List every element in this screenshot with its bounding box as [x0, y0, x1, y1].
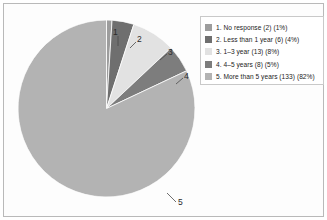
legend-item-label: 1. No response (2) (1%)	[216, 24, 288, 31]
legend-item: 4. 4–5 years (8) (5%)	[205, 58, 320, 70]
legend-item: 5. More than 5 years (133) (82%)	[205, 71, 320, 83]
pie-chart-area: 1 2 3 4 5	[12, 12, 202, 210]
slice-callout-1: 1	[113, 28, 118, 37]
legend-swatch-4	[205, 61, 212, 68]
legend-item-label: 2. Less than 1 year (6) (4%)	[216, 36, 299, 43]
legend-swatch-2	[205, 36, 212, 43]
legend-swatch-1	[205, 24, 212, 31]
chart-legend: 1. No response (2) (1%) 2. Less than 1 y…	[200, 16, 324, 85]
slice-callout-3: 3	[168, 48, 173, 57]
slice-callout-4: 4	[184, 72, 189, 81]
legend-item-label: 4. 4–5 years (8) (5%)	[216, 61, 279, 68]
legend-item-label: 5. More than 5 years (133) (82%)	[216, 73, 315, 80]
slice-callout-5: 5	[178, 198, 183, 207]
slice-callout-2: 2	[137, 35, 142, 44]
legend-item: 2. Less than 1 year (6) (4%)	[205, 33, 320, 45]
legend-item: 3. 1–3 year (13) (8%)	[205, 46, 320, 58]
leader-line-5	[167, 193, 176, 202]
legend-item: 1. No response (2) (1%)	[205, 21, 320, 33]
legend-item-label: 3. 1–3 year (13) (8%)	[216, 48, 279, 55]
legend-swatch-5	[205, 73, 212, 80]
legend-swatch-3	[205, 48, 212, 55]
chart-frame: 1 2 3 4 5 1. No response (2) (1%) 2. Les…	[3, 3, 324, 217]
